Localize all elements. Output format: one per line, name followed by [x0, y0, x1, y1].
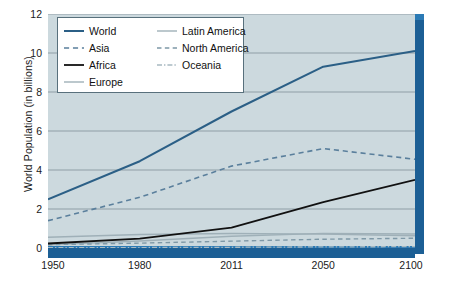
plot-frame-base-bar: [48, 248, 415, 258]
y-tick-label: 10: [22, 47, 42, 59]
legend-line-swatch: [157, 60, 177, 70]
legend-item-oceania[interactable]: Oceania: [157, 56, 243, 73]
legend-line-swatch: [157, 43, 177, 53]
population-line-chart: World Population (in billions) 024681012…: [0, 0, 458, 282]
series-line-asia: [48, 149, 415, 221]
legend-label: North America: [182, 42, 249, 54]
x-tick-label: 1980: [128, 259, 151, 271]
x-axis-tick-labels: 19501980201120502100: [0, 259, 458, 275]
series-line-oceania: [48, 247, 415, 248]
plot-frame-right-edge: [415, 20, 424, 254]
legend-item-asia[interactable]: Asia: [64, 39, 152, 56]
legend-item-africa[interactable]: Africa: [64, 56, 152, 73]
legend-item-world[interactable]: World: [64, 22, 152, 39]
legend-label: Africa: [89, 59, 116, 71]
legend-label: World: [89, 25, 116, 37]
legend-item-latin-america[interactable]: Latin America: [157, 22, 243, 39]
legend-label: Europe: [89, 76, 123, 88]
legend-item-europe[interactable]: Europe: [64, 73, 152, 90]
x-tick-label: 2100: [399, 259, 422, 271]
y-tick-label: 2: [22, 203, 42, 215]
y-tick-label: 12: [22, 8, 42, 20]
legend-line-swatch: [64, 43, 84, 53]
legend-column-left: WorldAsiaAfricaEurope: [64, 22, 152, 90]
legend-label: Latin America: [182, 25, 246, 37]
x-tick-label: 1950: [41, 259, 64, 271]
legend-line-swatch: [64, 26, 84, 36]
legend-item-north-america[interactable]: North America: [157, 39, 243, 56]
x-tick-label: 2011: [220, 259, 243, 271]
x-tick-label: 2050: [312, 259, 335, 271]
y-tick-label: 8: [22, 86, 42, 98]
y-tick-label: 0: [22, 242, 42, 254]
y-tick-label: 4: [22, 164, 42, 176]
legend-label: Oceania: [182, 59, 221, 71]
legend-line-swatch: [64, 60, 84, 70]
legend-label: Asia: [89, 42, 109, 54]
y-axis-tick-labels: 024681012: [20, 0, 42, 282]
y-tick-label: 6: [22, 125, 42, 137]
chart-legend: WorldAsiaAfricaEurope Latin AmericaNorth…: [57, 17, 244, 93]
legend-line-swatch: [157, 26, 177, 36]
legend-line-swatch: [64, 77, 84, 87]
legend-column-right: Latin AmericaNorth AmericaOceania: [157, 22, 243, 73]
